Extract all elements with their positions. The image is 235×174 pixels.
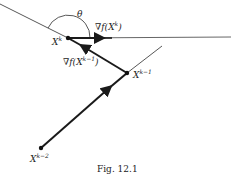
point-label-xk: Xk <box>51 35 62 47</box>
step-xk1-to-xk-tail <box>68 38 84 47</box>
gradient-diagram: θ ∇f(Xk) Xk ∇f(Xk−1) Xk−1 Xk−2 Fig. 12.1 <box>0 0 235 174</box>
step-xk2-to-xk1 <box>41 89 108 148</box>
gradient-label-xk1: ∇f(Xk−1) <box>63 55 99 67</box>
point-label-xk1: Xk−1 <box>132 68 152 80</box>
figure-caption: Fig. 12.1 <box>97 164 138 174</box>
point-xk1 <box>125 71 129 75</box>
angle-theta-arc <box>48 15 90 38</box>
point-label-xk2: Xk−2 <box>29 152 49 164</box>
tangent-line-xk <box>0 4 68 38</box>
point-xk2 <box>39 146 43 150</box>
theta-label: θ <box>77 9 83 19</box>
gradient-label-xk: ∇f(Xk) <box>95 20 122 32</box>
step-xk2-to-xk1-tail <box>108 73 127 89</box>
point-xk <box>66 36 70 40</box>
